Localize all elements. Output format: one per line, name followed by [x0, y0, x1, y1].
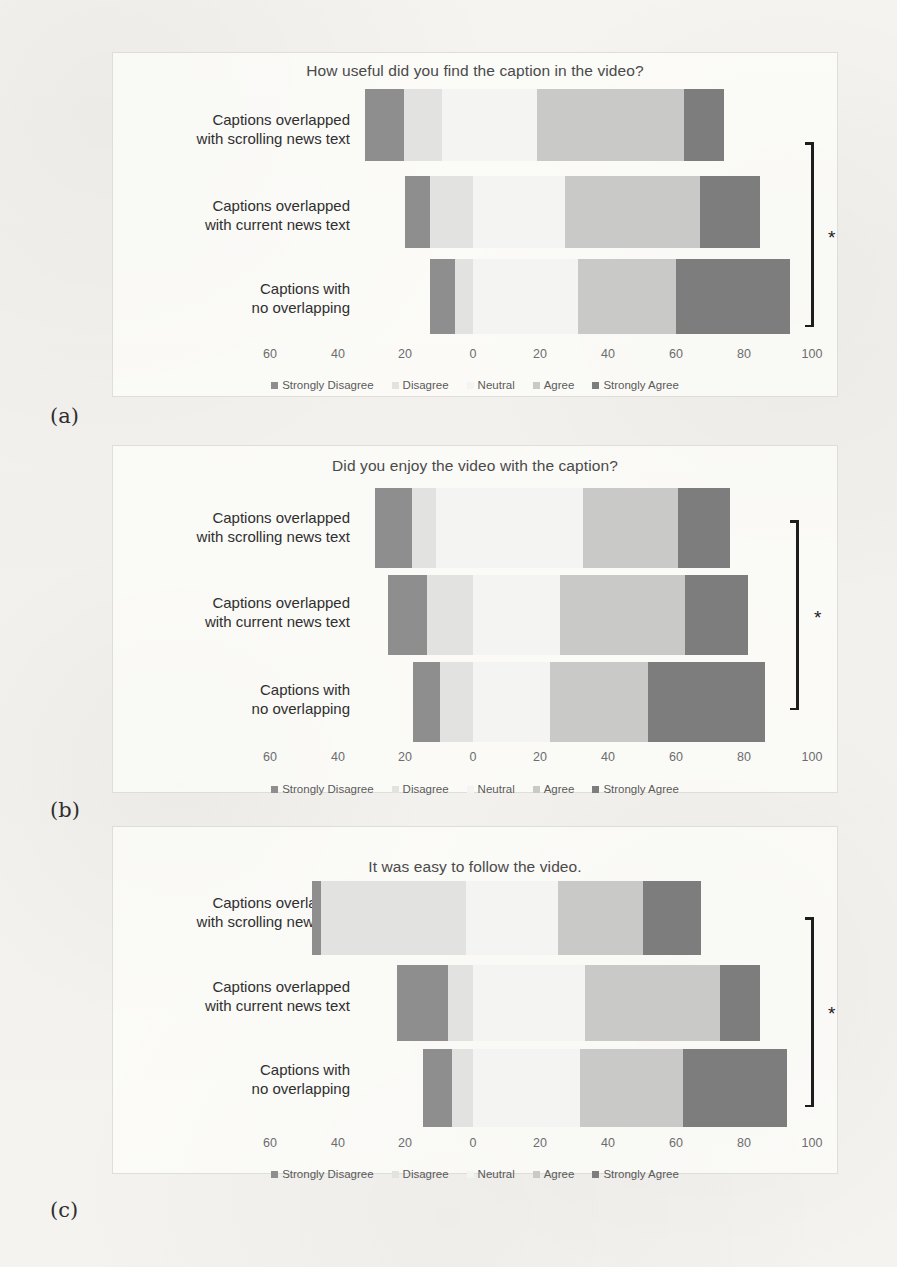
chart-b-significance-star: * — [814, 608, 821, 627]
legend-item-agree: Agree — [533, 1168, 575, 1180]
segment-neutral — [473, 965, 585, 1041]
segment-agree — [560, 575, 685, 655]
chart-c-bar-row-1 — [397, 965, 760, 1041]
legend-swatch-agree — [533, 786, 540, 793]
segment-agree — [583, 488, 678, 568]
legend-label-strongly-disagree: Strongly Disagree — [282, 783, 373, 795]
chart-c-significance-bracket — [805, 917, 820, 1107]
legend-label-disagree: Disagree — [403, 783, 449, 795]
chart-c-category-1: Captions overlapped with current news te… — [120, 977, 350, 1015]
segment-neutral — [436, 488, 583, 568]
segment-disagree — [440, 662, 473, 742]
legend-item-strongly-agree: Strongly Agree — [592, 1168, 678, 1180]
segment-strongly-agree — [720, 965, 760, 1041]
panel-label-c: (c) — [50, 1198, 78, 1222]
segment-agree — [580, 1049, 683, 1127]
legend-item-neutral: Neutral — [467, 783, 515, 795]
segment-neutral — [466, 881, 558, 955]
chart-c-tick-2: 20 — [385, 1136, 425, 1150]
segment-disagree — [452, 1049, 473, 1127]
panel-label-b: (b) — [50, 798, 80, 822]
segment-strongly-agree — [648, 662, 765, 742]
chart-b-category-2: Captions with no overlapping — [120, 680, 350, 718]
segment-agree — [585, 965, 720, 1041]
chart-b-legend: Strongly Disagree Disagree Neutral Agree… — [112, 783, 838, 795]
segment-strongly-disagree — [423, 1049, 452, 1127]
segment-strongly-agree — [685, 575, 748, 655]
chart-b-tick-0: 60 — [250, 750, 290, 764]
legend-swatch-disagree — [392, 786, 399, 793]
segment-strongly-disagree — [388, 575, 427, 655]
legend-item-strongly-agree: Strongly Agree — [592, 783, 678, 795]
legend-swatch-disagree — [392, 1171, 399, 1178]
segment-agree — [550, 662, 648, 742]
chart-b-tick-7: 80 — [724, 750, 764, 764]
chart-b-tick-3: 0 — [453, 750, 493, 764]
legend-swatch-agree — [533, 1171, 540, 1178]
legend-item-disagree: Disagree — [392, 783, 449, 795]
legend-swatch-strongly-agree — [592, 786, 599, 793]
chart-c-tick-3: 0 — [453, 1136, 493, 1150]
chart-b-bar-row-0 — [375, 488, 730, 568]
segment-disagree — [321, 881, 466, 955]
panel-c: It was easy to follow the video. Caption… — [0, 0, 897, 440]
segment-strongly-agree — [678, 488, 730, 568]
chart-c-tick-1: 40 — [318, 1136, 358, 1150]
segment-agree — [558, 881, 643, 955]
legend-swatch-strongly-disagree — [271, 1171, 278, 1178]
segment-disagree — [448, 965, 473, 1041]
segment-strongly-disagree — [375, 488, 412, 568]
legend-label-agree: Agree — [544, 783, 575, 795]
legend-swatch-neutral — [467, 786, 474, 793]
chart-b-category-0: Captions overlapped with scrolling news … — [120, 508, 350, 546]
segment-neutral — [473, 1049, 580, 1127]
segment-strongly-disagree — [312, 881, 321, 955]
chart-c-tick-0: 60 — [250, 1136, 290, 1150]
legend-swatch-neutral — [467, 1171, 474, 1178]
chart-c-bar-row-2 — [423, 1049, 787, 1127]
segment-strongly-disagree — [413, 662, 440, 742]
legend-item-strongly-disagree: Strongly Disagree — [271, 1168, 373, 1180]
chart-c-significance-star: * — [828, 1004, 835, 1023]
figure-likert-charts: How useful did you find the caption in t… — [0, 0, 897, 1267]
chart-c-tick-5: 40 — [588, 1136, 628, 1150]
legend-label-strongly-agree: Strongly Agree — [603, 1168, 678, 1180]
bracket-bottom-tick — [790, 708, 799, 711]
chart-b-tick-2: 20 — [385, 750, 425, 764]
chart-c-bar-row-0 — [312, 881, 701, 955]
chart-b-tick-8: 100 — [792, 750, 832, 764]
bracket-top-tick — [805, 917, 814, 920]
segment-strongly-agree — [643, 881, 701, 955]
chart-b-tick-4: 20 — [520, 750, 560, 764]
legend-item-neutral: Neutral — [467, 1168, 515, 1180]
legend-item-agree: Agree — [533, 783, 575, 795]
legend-label-neutral: Neutral — [478, 1168, 515, 1180]
segment-neutral — [473, 662, 550, 742]
chart-c-tick-7: 80 — [724, 1136, 764, 1150]
legend-swatch-strongly-agree — [592, 1171, 599, 1178]
bracket-top-tick — [790, 520, 799, 523]
chart-c-tick-6: 60 — [656, 1136, 696, 1150]
bracket-vertical-line — [796, 520, 799, 710]
chart-c-tick-4: 20 — [520, 1136, 560, 1150]
legend-label-agree: Agree — [544, 1168, 575, 1180]
chart-b-bar-row-2 — [413, 662, 765, 742]
legend-label-strongly-agree: Strongly Agree — [603, 783, 678, 795]
chart-b-tick-6: 60 — [656, 750, 696, 764]
chart-b-significance-bracket — [790, 520, 805, 710]
legend-item-strongly-disagree: Strongly Disagree — [271, 783, 373, 795]
segment-disagree — [427, 575, 473, 655]
chart-c-category-2: Captions with no overlapping — [120, 1060, 350, 1098]
legend-label-disagree: Disagree — [403, 1168, 449, 1180]
chart-c-tick-8: 100 — [792, 1136, 832, 1150]
chart-b-bar-row-1 — [388, 575, 748, 655]
chart-b-title: Did you enjoy the video with the caption… — [112, 457, 838, 475]
legend-swatch-strongly-disagree — [271, 786, 278, 793]
segment-disagree — [412, 488, 436, 568]
chart-c-legend: Strongly Disagree Disagree Neutral Agree… — [112, 1168, 838, 1180]
segment-strongly-disagree — [397, 965, 448, 1041]
legend-label-strongly-disagree: Strongly Disagree — [282, 1168, 373, 1180]
legend-item-disagree: Disagree — [392, 1168, 449, 1180]
chart-b-tick-5: 40 — [588, 750, 628, 764]
chart-c-title: It was easy to follow the video. — [112, 858, 838, 876]
